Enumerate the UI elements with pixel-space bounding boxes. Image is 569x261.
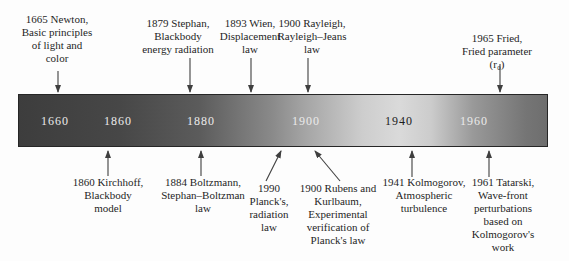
year-label-1900: 1900 <box>292 113 320 128</box>
arrow-planck-up <box>266 151 281 181</box>
timeline-bar: 1660 1860 1880 1900 1940 1960 <box>18 94 548 147</box>
event-rubens-kurlbaum-1900: 1900 Rubens and Kurlbaum, Experimental v… <box>300 182 376 247</box>
timeline-figure: 1660 1860 1880 1900 1940 1960 1665 Newto… <box>0 0 569 261</box>
event-planck-radiation-law: 1990 Planck's, radiation law <box>249 182 288 234</box>
event-fried-1965: 1965 Fried, Fried parameter (r₀) <box>461 32 533 71</box>
event-newton-1665: 1665 Newton, Basic principles of light a… <box>22 13 93 65</box>
event-kolmogorov-1941: 1941 Kolmogorov, Atmospheric turbulence <box>382 176 465 215</box>
event-boltzmann-1884: 1884 Boltzmann, Stephan–Boltzman law <box>161 176 245 215</box>
event-wien-1893: 1893 Wien, Displacement law <box>220 17 280 56</box>
event-rayleigh-1900: 1900 Rayleigh, Rayleigh–Jeans law <box>277 17 346 56</box>
event-stephan-1879: 1879 Stephan, Blackbody energy radiation <box>142 17 214 56</box>
year-label-1660: 1660 <box>41 113 69 128</box>
year-label-1940: 1940 <box>385 113 413 128</box>
event-tatarski-1961: 1961 Tatarski, Wave-front perturbations … <box>470 176 536 254</box>
arrow-rubens-up <box>315 151 340 181</box>
year-label-1880: 1880 <box>187 113 215 128</box>
year-label-1960: 1960 <box>460 113 488 128</box>
year-label-1860: 1860 <box>104 113 132 128</box>
event-kirchhoff-1860: 1860 Kirchhoff, Blackbody model <box>73 176 144 215</box>
